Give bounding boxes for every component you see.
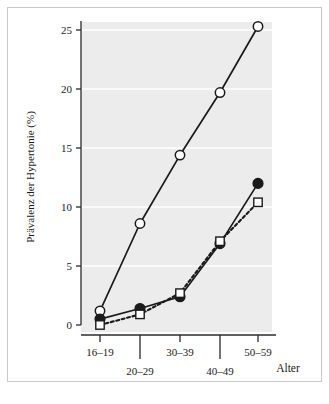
hypertension-prevalence-chart: 0510152025 16–1920–2930–3940–4950–59 Prä… [0, 0, 329, 404]
data-point-open-circle [253, 22, 262, 31]
plot-background [81, 22, 272, 332]
y-axis-title-text: Prävalenz der Hypertonie (%) [24, 111, 37, 243]
y-tick-label: 20 [61, 83, 73, 95]
x-tick-label: 40–49 [206, 365, 234, 377]
y-axis: 0510152025 [61, 21, 81, 331]
data-point-open-square [136, 310, 144, 318]
data-point-open-square [254, 198, 262, 206]
data-point-open-square [216, 237, 224, 245]
y-axis-title: Prävalenz der Hypertonie (%) [24, 111, 37, 243]
x-axis-title-text: Alter [276, 362, 300, 374]
y-tick-label: 10 [61, 201, 73, 213]
figure-container: 0510152025 16–1920–2930–3940–4950–59 Prä… [0, 0, 329, 404]
data-point-open-circle [215, 88, 224, 97]
x-axis-title: Alter [276, 362, 300, 374]
x-tick-label: 20–29 [126, 365, 154, 377]
x-axis: 16–1920–2930–3940–4950–59 [81, 335, 276, 377]
data-point-open-square [176, 289, 184, 297]
data-point-open-circle [175, 150, 184, 159]
x-tick-label: 30–39 [166, 346, 194, 358]
y-tick-label: 15 [61, 142, 73, 154]
data-point-filled-circle [253, 178, 263, 188]
y-tick-label: 0 [67, 319, 73, 331]
data-point-open-square [96, 321, 104, 329]
data-point-open-circle [135, 219, 144, 228]
x-tick-label: 50–59 [244, 346, 272, 358]
y-tick-label: 25 [61, 24, 73, 36]
y-tick-label: 5 [67, 260, 73, 272]
x-tick-label: 16–19 [86, 346, 114, 358]
